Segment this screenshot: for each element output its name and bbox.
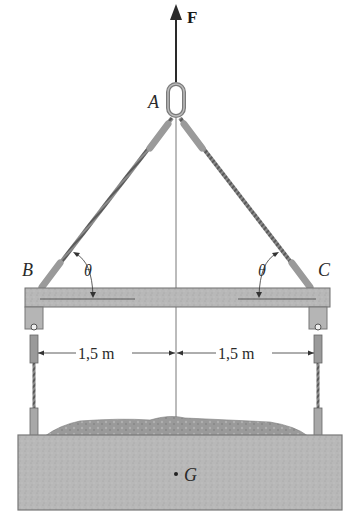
point-b-label: B — [22, 260, 33, 280]
point-c-label: C — [318, 260, 331, 280]
force-arrow — [170, 4, 182, 82]
cable-ac — [180, 118, 317, 296]
spreader-beam — [25, 288, 330, 307]
point-a-label: A — [147, 92, 160, 112]
cable-ab — [35, 118, 172, 296]
left-hanger — [25, 307, 43, 436]
force-label: F — [187, 8, 197, 27]
angle-left-label: θ — [84, 262, 92, 279]
dimension-left-label: 1,5 m — [78, 345, 115, 362]
lifting-ring — [168, 84, 184, 116]
center-of-gravity-dot — [174, 472, 178, 476]
container — [18, 435, 342, 510]
right-hanger — [309, 307, 327, 436]
angle-right-label: θ — [258, 262, 266, 279]
dimension-right-label: 1,5 m — [218, 345, 255, 362]
load-material — [45, 416, 308, 436]
lifting-beam-diagram: F A B C θ θ — [0, 0, 361, 530]
center-of-gravity-label: G — [184, 465, 197, 485]
